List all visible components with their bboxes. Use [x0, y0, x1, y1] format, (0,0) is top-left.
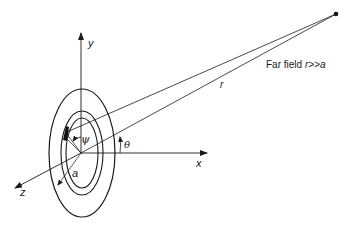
psi-label: ψ	[81, 133, 90, 146]
element-ray	[67, 14, 336, 132]
far-field-label: Far field r>>a	[266, 59, 326, 70]
far-field-point	[334, 12, 339, 17]
far-field-diagram: y x z θ ψ a r Far field r>>a	[0, 0, 349, 225]
far-field-condition: r>>a	[305, 59, 326, 70]
far-field-text: Far field	[266, 59, 305, 70]
r-line	[81, 14, 336, 153]
radius-a-label: a	[72, 167, 78, 179]
y-axis-label: y	[87, 37, 95, 49]
distance-r-label: r	[220, 79, 224, 90]
x-axis-label: x	[195, 157, 202, 169]
element-radius-2	[68, 140, 81, 153]
psi-arc-icon	[73, 137, 81, 141]
theta-arc-icon	[120, 137, 121, 153]
z-axis-label: z	[19, 186, 26, 198]
element-radius	[66, 133, 81, 153]
theta-label: θ	[124, 139, 130, 150]
